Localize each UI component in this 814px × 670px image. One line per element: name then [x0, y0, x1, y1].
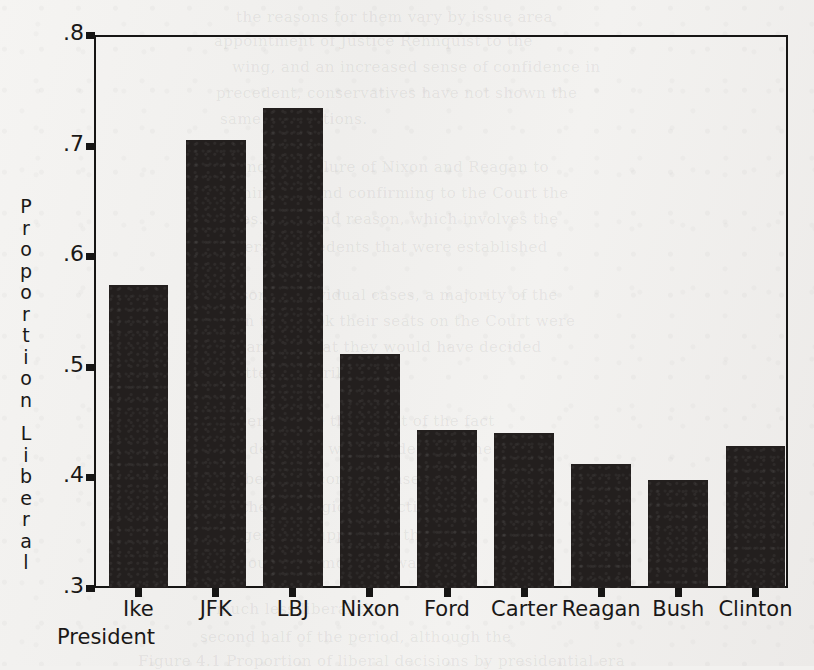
y-axis-title-char: e: [12, 488, 40, 510]
y-tick-label: .5: [48, 352, 84, 377]
y-tick-label: .3: [48, 573, 84, 598]
x-tick-mark: [366, 588, 373, 597]
x-tick-mark: [444, 588, 451, 597]
x-tick-label-clinton: Clinton: [718, 597, 792, 621]
x-tick-mark: [675, 588, 682, 597]
y-axis-title-char: r: [12, 218, 40, 240]
y-axis-title-char: L: [12, 423, 40, 445]
y-axis-title-char: l: [12, 552, 40, 574]
y-tick-mark: [86, 364, 95, 371]
y-axis-title-char: P: [12, 196, 40, 218]
x-tick-label-ford: Ford: [424, 597, 470, 621]
y-axis-title-char: r: [12, 304, 40, 326]
x-tick-label-carter: Carter: [491, 597, 557, 621]
y-tick-label: .6: [48, 241, 84, 266]
y-tick-mark: [86, 585, 95, 592]
y-axis-title-char: i: [12, 347, 40, 369]
y-tick-mark: [86, 143, 95, 150]
x-tick-label-nixon: Nixon: [340, 597, 399, 621]
y-axis-title-char: t: [12, 325, 40, 347]
y-axis-title-char: r: [12, 509, 40, 531]
y-tick-label: .7: [48, 131, 84, 156]
y-tick-mark: [86, 32, 95, 39]
x-tick-label-lbj: LBJ: [277, 597, 309, 621]
y-axis-title-char: o: [12, 282, 40, 304]
y-tick-label: .8: [48, 20, 84, 45]
y-axis-title: ProportionLiberal: [12, 196, 40, 574]
x-tick-mark: [521, 588, 528, 597]
y-axis-tick-labels: .3.4.5.6.7.8: [44, 0, 84, 666]
y-axis-title-char: o: [12, 239, 40, 261]
x-tick-label-reagan: Reagan: [562, 597, 641, 621]
y-axis-title-char: n: [12, 390, 40, 412]
bar-bush: [648, 480, 708, 588]
x-tick-mark: [289, 588, 296, 597]
x-tick-mark: [135, 588, 142, 597]
bar-lbj: [263, 108, 323, 588]
bar-ford: [417, 430, 477, 588]
x-axis-title: President: [57, 625, 155, 649]
y-axis-title-char: o: [12, 368, 40, 390]
y-axis-title-char: a: [12, 531, 40, 553]
bar-carter: [494, 433, 554, 588]
y-axis-title-char: b: [12, 466, 40, 488]
y-axis-title-char: i: [12, 445, 40, 467]
x-tick-label-bush: Bush: [652, 597, 704, 621]
y-tick-mark: [86, 474, 95, 481]
bar-clinton: [726, 446, 786, 588]
y-tick-mark: [86, 253, 95, 260]
x-tick-label-ike: Ike: [123, 597, 154, 621]
bar-nixon: [340, 354, 400, 588]
bars-container: [94, 35, 788, 588]
x-tick-label-jfk: JFK: [200, 597, 232, 621]
x-tick-mark: [752, 588, 759, 597]
y-tick-label: .4: [48, 462, 84, 487]
x-tick-mark: [212, 588, 219, 597]
bar-reagan: [571, 464, 631, 588]
y-axis-title-char: p: [12, 261, 40, 283]
x-tick-mark: [598, 588, 605, 597]
bar-jfk: [186, 140, 246, 588]
bar-ike: [109, 285, 169, 588]
